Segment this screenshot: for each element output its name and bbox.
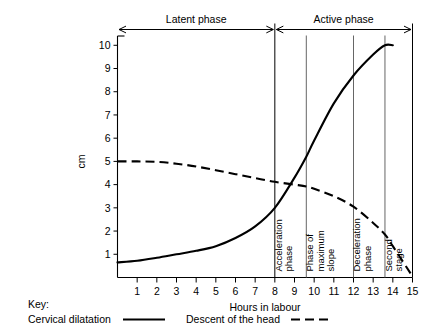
- x-tick-label-9: 9: [292, 285, 298, 297]
- x-tick-label-10: 10: [308, 285, 320, 297]
- x-tick-label-4: 4: [193, 285, 199, 297]
- y-tick-label-10: 10: [99, 39, 111, 51]
- y-tick-label-3: 3: [105, 202, 111, 214]
- sub-phase-label-1-line-0: Phase of: [304, 234, 315, 272]
- y-tick-label-2: 2: [105, 225, 111, 237]
- y-tick-label-7: 7: [105, 109, 111, 121]
- key-heading: Key:: [28, 298, 49, 310]
- y-tick-label-8: 8: [105, 85, 111, 97]
- y-tick-label-1: 1: [105, 248, 111, 260]
- partogram-figure: Latent phaseActive phase12345678910cm123…: [0, 0, 425, 330]
- sub-phase-label-2-line-1: phase: [362, 246, 373, 272]
- sub-phase-label-0-line-1: phase: [283, 246, 294, 272]
- x-tick-label-5: 5: [213, 285, 219, 297]
- x-tick-label-3: 3: [174, 285, 180, 297]
- partogram-chart: Latent phaseActive phase12345678910cm123…: [0, 0, 425, 330]
- phase-label-1: Active phase: [314, 13, 374, 25]
- y-axis-title: cm: [75, 154, 87, 168]
- x-tick-label-13: 13: [367, 285, 379, 297]
- x-tick-label-2: 2: [154, 285, 160, 297]
- sub-phase-label-1-line-2: slope: [325, 249, 336, 272]
- x-axis-title: Hours in labour: [229, 301, 301, 313]
- y-tick-label-9: 9: [105, 62, 111, 74]
- y-tick-label-5: 5: [105, 155, 111, 167]
- x-tick-label-15: 15: [407, 285, 419, 297]
- key-entry-label-0: Cervical dilatation: [28, 313, 111, 325]
- y-tick-label-4: 4: [105, 178, 111, 190]
- x-tick-label-1: 1: [134, 285, 140, 297]
- x-tick-label-8: 8: [272, 285, 278, 297]
- y-tick-label-6: 6: [105, 132, 111, 144]
- x-tick-label-6: 6: [233, 285, 239, 297]
- x-tick-label-11: 11: [328, 285, 339, 297]
- sub-phase-label-0-line-0: Acceleration: [273, 219, 284, 271]
- phase-label-0: Latent phase: [166, 13, 227, 25]
- sub-phase-label-1-line-1: maximum: [315, 230, 326, 271]
- key-entry-label-1: Descent of the head: [186, 313, 280, 325]
- x-tick-label-12: 12: [348, 285, 360, 297]
- x-tick-label-14: 14: [387, 285, 399, 297]
- sub-phase-label-2-line-0: Deceleration: [351, 218, 362, 271]
- x-tick-label-7: 7: [252, 285, 258, 297]
